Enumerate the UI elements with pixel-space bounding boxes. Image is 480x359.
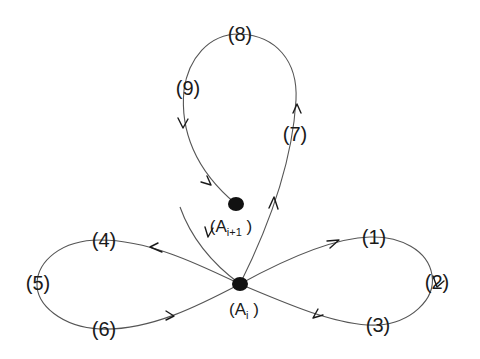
node-label-a-i-plus-1: (Ai+1 ) [210, 218, 252, 238]
node-a-i [232, 277, 248, 291]
point-label-8: (8) [228, 24, 252, 44]
point-label-9: (9) [176, 78, 200, 98]
point-label-5: (5) [26, 273, 50, 293]
top-loop-curve [183, 34, 296, 284]
node-letter: A [215, 217, 226, 236]
paren-close: ) [253, 300, 259, 319]
arrow-icon-top-down [178, 118, 188, 128]
right-loop-curve [240, 237, 432, 325]
arrow-icon-left-return [166, 311, 174, 320]
left-loop-curve [37, 240, 240, 329]
node-label-a-i: (Ai ) [229, 301, 259, 321]
node-subscript: i+1 [227, 226, 242, 238]
arrow-icon-top-up-upper [293, 104, 301, 113]
point-label-6: (6) [92, 319, 116, 339]
node-letter: A [235, 300, 246, 319]
paren-close: ) [247, 217, 253, 236]
point-label-2: (2) [425, 272, 449, 292]
node-a-i-plus-1 [228, 197, 244, 211]
point-label-7: (7) [283, 124, 307, 144]
point-label-4: (4) [92, 230, 116, 250]
point-label-3: (3) [366, 315, 390, 335]
point-label-1: (1) [362, 227, 386, 247]
arrow-icon-left-out [150, 243, 162, 252]
node-subscript: i [246, 309, 248, 321]
